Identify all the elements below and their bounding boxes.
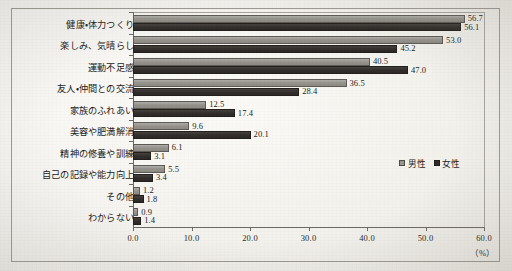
category-tick-mark	[129, 120, 133, 121]
bar-male	[133, 15, 465, 23]
bar-male	[133, 122, 189, 130]
bar-value-label: 3.4	[156, 172, 167, 182]
x-tick-label: 30.0	[301, 233, 317, 243]
bar-value-label: 36.5	[350, 78, 365, 88]
chart-plot-area: 0.010.020.030.040.050.060.0 健康・体力つくり楽しみ、…	[0, 0, 512, 271]
bar-value-label: 1.8	[147, 194, 158, 204]
x-tick-mark	[426, 227, 427, 231]
chart-legend: 男性 女性	[399, 157, 460, 169]
x-tick-label: 0.0	[127, 233, 138, 243]
x-tick-mark	[250, 227, 251, 231]
bar-value-label: 6.1	[172, 142, 183, 152]
bar-value-label: 45.2	[400, 43, 415, 53]
x-tick-label: 60.0	[476, 233, 492, 243]
bar-value-label: 12.5	[209, 99, 224, 109]
bar-female	[133, 45, 397, 53]
category-tick-mark	[129, 206, 133, 207]
bar-value-label: 40.5	[373, 56, 388, 66]
bar-female	[133, 23, 461, 31]
legend-swatch-male-icon	[399, 160, 405, 166]
x-tick-mark	[367, 227, 368, 231]
category-tick-mark	[129, 77, 133, 78]
category-label: 友人・仲間との交流	[57, 81, 134, 95]
bar-value-label: 56.1	[464, 22, 479, 32]
bar-female	[133, 109, 235, 117]
category-tick-mark	[129, 163, 133, 164]
category-label: 健康・体力つくり	[66, 17, 134, 31]
legend-swatch-female-icon	[434, 160, 440, 166]
category-tick-mark	[129, 12, 133, 13]
legend-item-female: 女性	[434, 157, 461, 169]
plot-top-border	[133, 12, 484, 13]
category-tick-mark	[129, 184, 133, 185]
category-label: わからない	[88, 210, 134, 224]
bar-female	[133, 174, 153, 182]
bar-female	[133, 217, 141, 225]
bar-value-label: 28.4	[302, 86, 317, 96]
category-tick-mark	[129, 141, 133, 142]
bar-value-label: 47.0	[411, 65, 426, 75]
bar-male	[133, 208, 138, 216]
bar-female	[133, 66, 408, 74]
category-tick-mark	[129, 55, 133, 56]
bar-male	[133, 58, 370, 66]
bar-value-label: 1.4	[144, 215, 155, 225]
x-tick-mark	[309, 227, 310, 231]
category-label: 運動不足感	[88, 60, 134, 74]
bar-value-label: 5.5	[168, 164, 179, 174]
bar-female	[133, 195, 144, 203]
category-label: その他	[106, 189, 134, 203]
bar-male	[133, 187, 140, 195]
bar-female	[133, 88, 299, 96]
x-tick-label: 10.0	[184, 233, 200, 243]
x-tick-label: 50.0	[418, 233, 434, 243]
x-tick-label: 40.0	[359, 233, 375, 243]
bar-value-label: 9.6	[192, 121, 203, 131]
category-label: 家族のふれあい	[70, 103, 134, 117]
x-tick-label: 20.0	[242, 233, 258, 243]
legend-label-male: 男性	[408, 157, 426, 169]
category-label: 美容や肥満解消	[70, 124, 134, 138]
x-axis-unit-label: （%）	[470, 246, 495, 258]
plot-right-border	[484, 12, 485, 227]
x-tick-mark	[484, 227, 485, 231]
bar-female	[133, 131, 251, 139]
category-label: 楽しみ、気晴らし	[60, 38, 134, 52]
bar-female	[133, 152, 151, 160]
legend-label-female: 女性	[442, 157, 460, 169]
bar-value-label: 20.1	[254, 129, 269, 139]
bar-value-label: 53.0	[446, 35, 461, 45]
legend-item-male: 男性	[399, 157, 426, 169]
category-label: 自己の記録や能力向上	[42, 167, 134, 181]
bar-value-label: 17.4	[238, 108, 253, 118]
bar-value-label: 3.1	[154, 151, 165, 161]
x-tick-mark	[192, 227, 193, 231]
category-label: 精神の修養や訓練	[60, 146, 134, 160]
x-tick-mark	[133, 227, 134, 231]
category-tick-mark	[129, 34, 133, 35]
category-tick-mark	[129, 98, 133, 99]
bar-male	[133, 101, 206, 109]
bar-male	[133, 36, 443, 44]
